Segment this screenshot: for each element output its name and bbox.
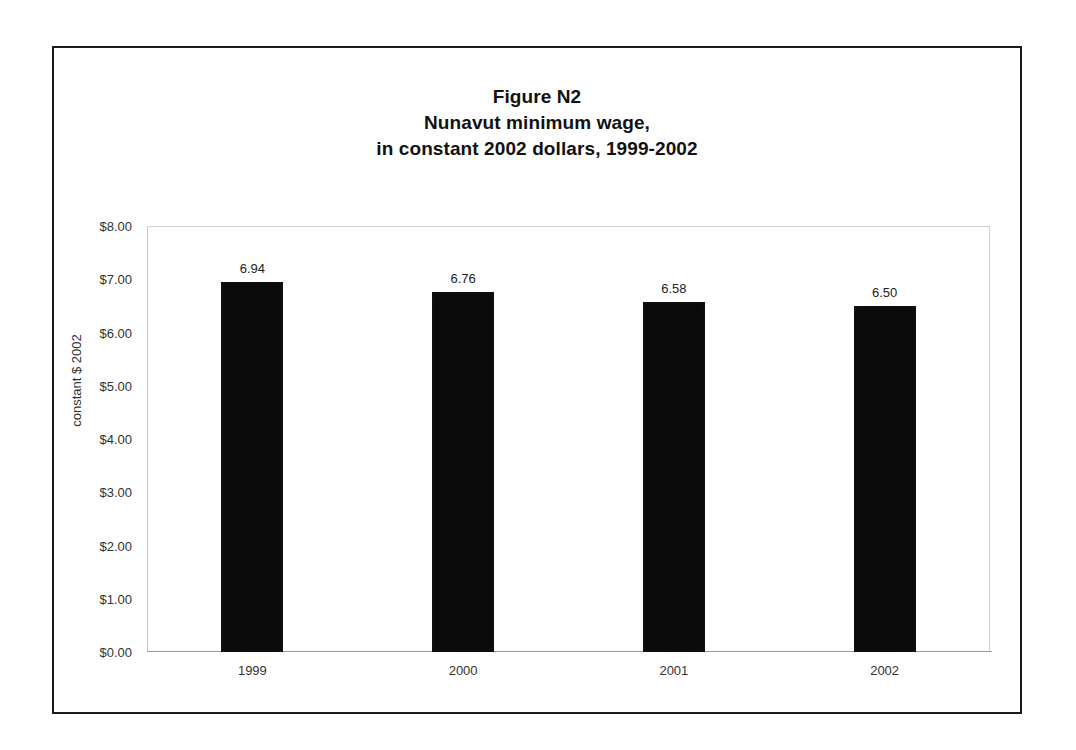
y-axis-tick-label: $8.00 — [54, 219, 132, 234]
bar — [643, 302, 705, 652]
bar — [221, 282, 283, 652]
chart-title-line-figure: Figure N2 — [54, 84, 1020, 110]
bar-value-label: 6.58 — [661, 281, 686, 296]
y-axis-tick-label: $1.00 — [54, 591, 132, 606]
y-axis-tick-label: $6.00 — [54, 325, 132, 340]
bar — [854, 306, 916, 652]
chart-title: Figure N2 Nunavut minimum wage, in const… — [54, 84, 1020, 162]
chart-title-line-subject: Nunavut minimum wage, — [54, 110, 1020, 136]
y-axis-tick-label: $3.00 — [54, 485, 132, 500]
x-axis-tick-label: 2000 — [449, 663, 478, 678]
y-axis-tick-label: $2.00 — [54, 538, 132, 553]
x-axis-tick-label: 2002 — [870, 663, 899, 678]
bar-value-label: 6.50 — [872, 285, 897, 300]
chart-title-line-period: in constant 2002 dollars, 1999-2002 — [54, 136, 1020, 162]
y-axis-tick-label: $7.00 — [54, 272, 132, 287]
bar-value-label: 6.76 — [450, 271, 475, 286]
y-axis-tick-label: $5.00 — [54, 378, 132, 393]
bar-value-label: 6.94 — [240, 261, 265, 276]
y-axis-tick-labels: $0.00$1.00$2.00$3.00$4.00$5.00$6.00$7.00… — [54, 226, 140, 652]
bar — [432, 292, 494, 652]
figure-frame: Figure N2 Nunavut minimum wage, in const… — [52, 46, 1022, 714]
y-axis-tick-label: $4.00 — [54, 432, 132, 447]
y-axis-tick-label: $0.00 — [54, 645, 132, 660]
x-axis-tick-label: 2001 — [659, 663, 688, 678]
x-axis-tick-label: 1999 — [238, 663, 267, 678]
